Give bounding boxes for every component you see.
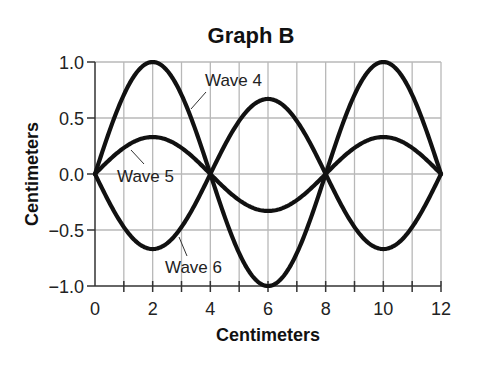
wave5-leader-line xyxy=(131,150,144,164)
chart: Graph B 1.00.50.0−0.5−1.0 024681012 Wave… xyxy=(0,0,478,368)
wave6-leader-line xyxy=(179,237,187,256)
x-tick-label: 12 xyxy=(431,299,451,319)
y-tick-labels: 1.00.50.0−0.5−1.0 xyxy=(48,53,84,297)
y-tick-label: 0.5 xyxy=(59,109,84,129)
y-tick-label: −0.5 xyxy=(48,221,84,241)
x-tick-label: 6 xyxy=(263,299,273,319)
x-tick-labels: 024681012 xyxy=(90,299,451,319)
x-tick-label: 0 xyxy=(90,299,100,319)
y-tick-label: 1.0 xyxy=(59,53,84,73)
chart-title: Graph B xyxy=(208,23,295,48)
x-axis-label: Centimeters xyxy=(216,325,320,345)
y-tick-label: −1.0 xyxy=(48,277,84,297)
y-axis-label: Centimeters xyxy=(22,122,42,226)
wave4-leader-line xyxy=(191,92,206,109)
wave5-label: Wave 5 xyxy=(117,167,174,186)
y-tick-label: 0.0 xyxy=(59,165,84,185)
wave6-label: Wave 6 xyxy=(165,258,222,277)
wave4-label: Wave 4 xyxy=(205,71,262,90)
x-tick-label: 2 xyxy=(148,299,158,319)
x-tick-label: 4 xyxy=(205,299,215,319)
x-tick-label: 10 xyxy=(373,299,393,319)
x-tick-label: 8 xyxy=(321,299,331,319)
